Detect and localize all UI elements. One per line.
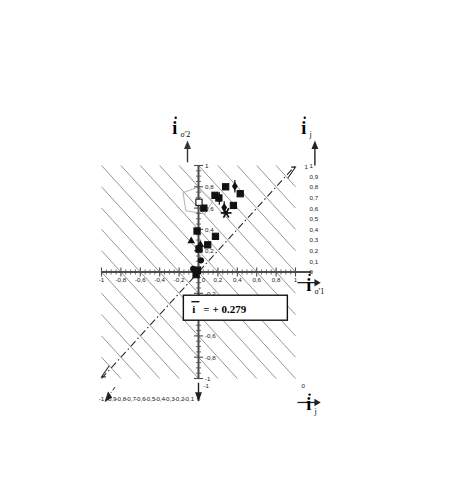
marker-filled-circle xyxy=(198,257,204,263)
x-tick-label: 0 xyxy=(202,276,206,283)
plot-background xyxy=(0,0,451,483)
y-tick-label: 1 xyxy=(205,162,209,169)
bottom-right-zero-label: 0 xyxy=(302,382,306,389)
right-axis-tick-label: 0,6 xyxy=(310,205,319,212)
x-tick-label: -0,8 xyxy=(116,276,127,283)
y-bottom-minus-one-label: -1 xyxy=(204,382,210,389)
marker-asterisk-core xyxy=(225,211,228,214)
marker-filled-square xyxy=(212,233,218,239)
right-axis-tick-label: 0,4 xyxy=(310,226,319,233)
right-axis-tick-label: 1 xyxy=(310,162,314,169)
right-axis-tick-label: 0,2 xyxy=(310,247,319,254)
x-tick-label: 0,8 xyxy=(272,276,281,283)
marker-filled-square xyxy=(205,242,211,248)
marker-filled-square xyxy=(193,272,199,278)
marker-filled-square xyxy=(201,205,207,211)
top-right-ij-symbol: i xyxy=(301,118,306,138)
mean-annotation: i= + 0.279 xyxy=(183,295,287,320)
x-tick-label: 0,4 xyxy=(233,276,242,283)
bottom-axis-tick-label: -1 xyxy=(99,395,105,402)
bottom-axis-tick-label: -0,1 xyxy=(183,395,194,402)
y-axis-symbol: i xyxy=(172,118,177,138)
right-axis-top-label: 1 xyxy=(305,163,309,170)
y-tick-label: -0,6 xyxy=(205,332,216,339)
marker-filled-circle xyxy=(190,266,196,272)
x-tick-label: -0,6 xyxy=(135,276,146,283)
x-tick-label: -0,4 xyxy=(154,276,165,283)
x-tick-label: 0,6 xyxy=(252,276,261,283)
y-tick-label: -0,8 xyxy=(205,354,216,361)
right-axis-tick-label: 0,7 xyxy=(310,194,319,201)
scatter-plot-svg: -1-0,8-0,6-0,4-0,200,20,40,60,81-1-0,8-0… xyxy=(0,0,451,483)
right-axis-tick-label: 0,1 xyxy=(310,258,319,265)
marker-open-square xyxy=(196,199,202,205)
x-tick-label: -1 xyxy=(99,276,105,283)
bottom-axis-tick-label: 0 xyxy=(197,395,201,402)
x-tick-label: -0,2 xyxy=(174,276,185,283)
top-right-ij-symbol-overdot xyxy=(304,117,306,119)
y-tick-label: 0,4 xyxy=(205,226,214,233)
x-tick-label: 1 xyxy=(294,276,298,283)
x-tick-label: 0,2 xyxy=(214,276,223,283)
right-axis-tick-label: 0,3 xyxy=(310,236,319,243)
y-tick-label: 0,8 xyxy=(205,183,214,190)
x-axis-subscript: σ'1 xyxy=(314,287,324,296)
y-axis-symbol-overdot xyxy=(175,117,177,119)
marker-filled-square xyxy=(230,202,236,208)
right-axis-tick-label: 0,9 xyxy=(310,173,319,180)
mean-annotation-value: = + 0.279 xyxy=(203,303,246,315)
right-axis-tick-label: 0,8 xyxy=(310,183,319,190)
marker-filled-square xyxy=(223,184,229,190)
x-axis-symbol-overdot xyxy=(308,274,310,276)
bottom-right-ij-symbol-overdot xyxy=(308,393,310,395)
y-tick-label: -1 xyxy=(205,375,211,382)
chart-figure: -1-0,8-0,6-0,4-0,200,20,40,60,81-1-0,8-0… xyxy=(0,0,451,483)
mean-annotation-symbol: i xyxy=(192,303,195,315)
marker-filled-square xyxy=(237,191,243,197)
y-axis-subscript: σ'2 xyxy=(181,130,191,139)
bottom-right-ij-subscript: j xyxy=(313,407,316,416)
x-axis-symbol: i xyxy=(306,275,311,295)
marker-filled-square xyxy=(194,228,200,234)
bottom-right-ij-symbol: i xyxy=(306,394,311,414)
top-right-ij-subscript: j xyxy=(309,130,312,139)
right-axis-tick-label: 0,5 xyxy=(310,215,319,222)
